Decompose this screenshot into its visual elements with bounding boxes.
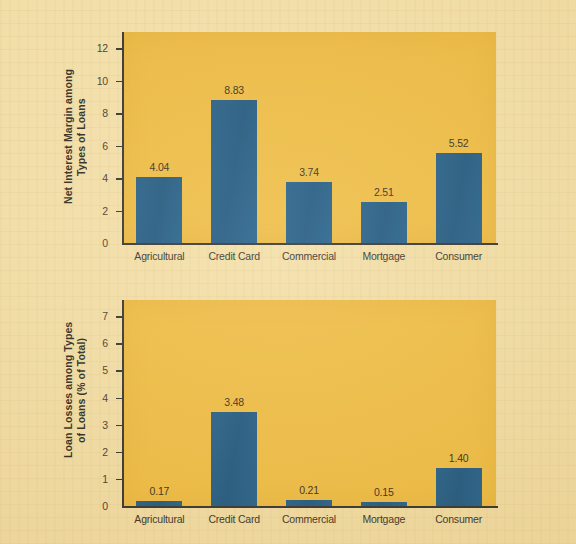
y-axis-tick <box>116 343 123 345</box>
bar-value-label: 3.48 <box>224 396 244 408</box>
y-axis-tick <box>116 48 123 50</box>
bar-value-label: 2.51 <box>374 186 394 198</box>
bar <box>286 500 332 506</box>
bar-value-label: 8.83 <box>224 84 244 96</box>
chart-net-interest-margin: Net Interest Margin amongTypes of Loans … <box>0 0 576 272</box>
y-axis-title-line: Net Interest Margin among <box>62 62 75 212</box>
y-axis-tick-label: 0 <box>76 500 108 512</box>
x-axis-category-label: Agricultural <box>134 513 184 525</box>
x-axis-line <box>122 243 498 245</box>
bar <box>286 182 332 243</box>
y-axis-line <box>122 300 124 507</box>
y-axis-tick-label: 2 <box>76 205 108 217</box>
y-axis-tick <box>116 370 123 372</box>
y-axis-tick-label: 8 <box>76 107 108 119</box>
y-axis-tick-label: 1 <box>76 473 108 485</box>
chart-loan-losses: Loan Losses among Typesof Loans (% of To… <box>0 272 576 544</box>
bar <box>211 100 257 243</box>
y-axis-tick <box>116 479 123 481</box>
bar <box>436 468 482 506</box>
bar <box>136 177 182 243</box>
y-axis-tick <box>116 398 123 400</box>
y-axis-line <box>122 32 124 244</box>
y-axis-tick <box>116 113 123 115</box>
y-axis-tick <box>116 178 123 180</box>
bar-value-label: 4.04 <box>150 161 170 173</box>
bar-value-label: 1.40 <box>449 452 469 464</box>
bar <box>361 502 407 506</box>
bar <box>211 412 257 506</box>
y-axis-tick-label: 3 <box>76 419 108 431</box>
y-axis-tick-label: 2 <box>76 446 108 458</box>
y-axis-tick-label: 4 <box>76 172 108 184</box>
y-axis-tick <box>116 452 123 454</box>
bar-value-label: 3.74 <box>299 166 319 178</box>
y-axis-tick-label: 12 <box>76 42 108 54</box>
x-axis-category-label: Consumer <box>435 513 482 525</box>
x-axis-category-label: Credit Card <box>208 513 259 525</box>
y-axis-tick <box>116 146 123 148</box>
bar-value-label: 0.15 <box>374 486 394 498</box>
y-axis-tick <box>116 81 123 83</box>
bar-value-label: 5.52 <box>449 137 469 149</box>
x-axis-category-label: Credit Card <box>208 250 259 262</box>
x-axis-category-label: Commercial <box>282 513 336 525</box>
y-axis-tick <box>116 211 123 213</box>
bar <box>361 202 407 243</box>
y-axis-tick-label: 4 <box>76 392 108 404</box>
y-axis-tick-label: 5 <box>76 364 108 376</box>
y-axis-tick <box>116 425 123 427</box>
bar <box>136 501 182 506</box>
x-axis-category-label: Consumer <box>435 250 482 262</box>
y-axis-tick-label: 10 <box>76 75 108 87</box>
y-axis-tick-label: 6 <box>76 140 108 152</box>
y-axis-tick <box>116 316 123 318</box>
x-axis-category-label: Mortgage <box>362 250 405 262</box>
x-axis-line <box>122 506 498 508</box>
y-axis-tick-label: 7 <box>76 310 108 322</box>
y-axis-title-line: Loan Losses among Types <box>62 300 75 480</box>
x-axis-category-label: Mortgage <box>362 513 405 525</box>
x-axis-category-label: Commercial <box>282 250 336 262</box>
bar <box>436 153 482 243</box>
bar-value-label: 0.17 <box>150 485 170 497</box>
bar-value-label: 0.21 <box>299 484 319 496</box>
y-axis-tick-label: 0 <box>76 237 108 249</box>
x-axis-category-label: Agricultural <box>134 250 184 262</box>
y-axis-tick-label: 6 <box>76 337 108 349</box>
